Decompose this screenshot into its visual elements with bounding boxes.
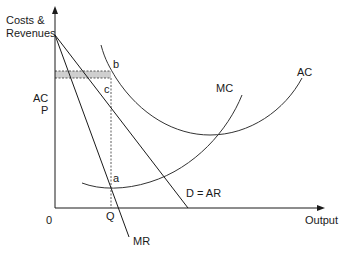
- q-label: Q: [106, 210, 115, 222]
- origin-label: 0: [46, 214, 52, 226]
- monopoly-diagram: Costs & Revenues AC P 0 Q Output MR D = …: [0, 0, 346, 257]
- y-axis-label-line1: Costs &: [6, 14, 45, 26]
- mc-label: MC: [216, 82, 233, 94]
- demand-ar-label: D = AR: [186, 187, 221, 199]
- point-c-label: c: [104, 83, 110, 95]
- mr-label: MR: [133, 235, 150, 247]
- ac-price-label: AC: [33, 92, 48, 104]
- p-price-label: P: [41, 104, 48, 116]
- demand-ar-curve: [55, 35, 188, 208]
- point-b-label: b: [113, 58, 119, 70]
- y-axis-arrow-icon: [52, 6, 58, 14]
- y-axis-label-line2: Revenues: [6, 27, 56, 39]
- ac-curve-label: AC: [297, 66, 312, 78]
- point-a-label: a: [113, 172, 120, 184]
- ac-curve: [101, 45, 302, 135]
- x-axis-label: Output: [305, 214, 338, 226]
- x-axis-arrow-icon: [317, 205, 325, 211]
